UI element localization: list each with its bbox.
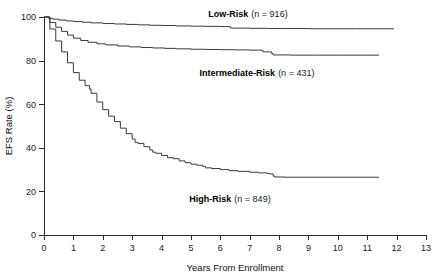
x-tick-label: 10: [333, 243, 343, 253]
y-tick-label: 80: [26, 56, 36, 66]
y-axis-title: EFS Rate (%): [3, 97, 14, 156]
x-tick-label: 4: [159, 243, 164, 253]
y-axis-group: 020406080100: [21, 12, 45, 240]
x-tick-group: 012345678910111213: [41, 235, 431, 253]
x-tick-label: 1: [71, 243, 76, 253]
annotation-series-name: Intermediate-Risk: [200, 68, 277, 78]
y-tick-label: 0: [31, 230, 36, 240]
annotation-sample-size: (n = 431): [278, 68, 314, 78]
x-tick-label: 9: [306, 243, 311, 253]
y-tick-group: 020406080100: [21, 12, 44, 240]
annotation-sample-size: (n = 849): [234, 194, 270, 204]
y-tick-label: 20: [26, 187, 36, 197]
x-tick-label: 13: [421, 243, 431, 253]
x-tick-label: 7: [247, 243, 252, 253]
annotation-low-risk: Low-Risk(n = 916): [208, 9, 287, 19]
annotation-sample-size: (n = 916): [251, 9, 287, 19]
annotation-intermediate-risk: Intermediate-Risk(n = 431): [200, 68, 315, 78]
annotation-high-risk: High-Risk(n = 849): [189, 194, 270, 204]
x-axis-title: Years From Enrollment: [187, 262, 284, 273]
y-tick-label: 100: [21, 12, 36, 22]
x-tick-label: 8: [277, 243, 282, 253]
x-tick-label: 11: [363, 243, 372, 253]
x-axis-group: 012345678910111213: [41, 235, 431, 253]
chart-canvas: 020406080100 012345678910111213 Low-Risk…: [0, 0, 440, 278]
survival-curve-high-risk: [44, 17, 379, 177]
annotation-series-name: Low-Risk: [208, 9, 249, 19]
curve-group: [44, 17, 394, 177]
y-tick-label: 60: [26, 100, 36, 110]
y-tick-label: 40: [26, 143, 36, 153]
series-annotation-group: Low-Risk(n = 916)Intermediate-Risk(n = 4…: [189, 9, 314, 204]
x-tick-label: 5: [188, 243, 193, 253]
x-tick-label: 2: [100, 243, 105, 253]
km-survival-chart: 020406080100 012345678910111213 Low-Risk…: [0, 0, 440, 278]
x-tick-label: 0: [41, 243, 46, 253]
x-tick-label: 12: [392, 243, 402, 253]
annotation-series-name: High-Risk: [189, 194, 232, 204]
x-tick-label: 3: [130, 243, 135, 253]
x-tick-label: 6: [218, 243, 223, 253]
